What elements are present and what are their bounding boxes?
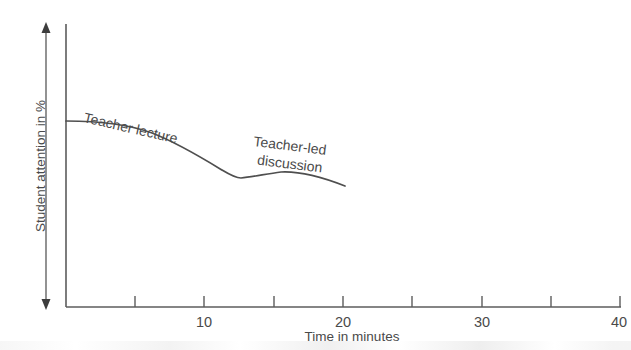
arrow-head-down-icon [42,299,51,310]
x-tick-label-30: 30 [474,314,490,330]
annotation-teacher-led-discussion: Teacher-led discussion [250,133,327,176]
x-tick-label-10: 10 [196,314,212,330]
y-axis-title: Student attention in % [33,100,48,232]
chart-canvas: Student attention in % 10 20 30 40 Time … [0,0,631,350]
x-tick-label-20: 20 [335,314,351,330]
x-tick-label-40: 40 [611,314,627,330]
x-axis-title: Time in minutes [305,329,400,344]
arrow-head-up-icon [42,22,51,33]
attention-curve-chart: Student attention in % 10 20 30 40 Time … [0,0,631,350]
annotation-teacher-lecture: Teacher lecture [82,109,179,146]
x-axis-ticks [135,296,620,307]
